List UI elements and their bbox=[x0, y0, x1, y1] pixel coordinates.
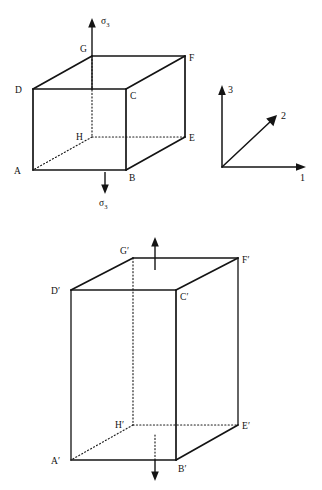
edge-Dp-Gp bbox=[71, 258, 133, 290]
stress-subscript-top: 3 bbox=[106, 21, 110, 28]
hidden-edges-bottom-prism bbox=[71, 258, 238, 460]
vertex-label-B: B bbox=[129, 173, 135, 183]
arrow-head-down-top bbox=[101, 185, 109, 195]
vertex-label-C: C bbox=[130, 91, 136, 101]
stress-arrow-down-bottom-prism bbox=[151, 460, 159, 481]
stress-label-bottom: σ3 bbox=[99, 198, 108, 210]
top-face-top-cube bbox=[33, 56, 185, 89]
undeformed-cube-group: A B C D E F G H σ3 σ3 bbox=[14, 16, 195, 210]
stress-arrow-up-top-cube bbox=[88, 18, 96, 90]
edge-B-E bbox=[126, 137, 185, 170]
vertex-label-G-prime: G′ bbox=[120, 246, 129, 256]
axis-label-2: 2 bbox=[281, 110, 286, 121]
hidden-edge-Hp-Ap bbox=[71, 425, 133, 460]
front-face-bottom-prism bbox=[71, 290, 176, 460]
vertex-label-B-prime: B′ bbox=[178, 464, 187, 474]
stress-arrow-down-top-cube bbox=[101, 172, 109, 194]
vertex-label-D-prime: D′ bbox=[51, 286, 60, 296]
stress-subscript-bottom: 3 bbox=[104, 203, 108, 210]
vertex-label-C-prime: C′ bbox=[180, 292, 189, 302]
axis-label-3: 3 bbox=[228, 84, 233, 95]
axis-1-arrowhead bbox=[296, 163, 306, 171]
edge-D-G bbox=[33, 56, 92, 89]
vertex-label-F-prime: F′ bbox=[242, 255, 250, 265]
front-face-top-cube bbox=[33, 89, 126, 170]
deformed-prism-group: A′ B′ C′ D′ E′ F′ G′ H′ bbox=[51, 237, 250, 481]
diagram-canvas: A B C D E F G H σ3 σ3 1 2 3 bbox=[0, 0, 322, 490]
vertex-label-G: G bbox=[80, 44, 87, 54]
stress-arrow-up-bottom-prism bbox=[151, 237, 159, 270]
vertex-label-A: A bbox=[14, 166, 21, 176]
hidden-edge-H-A bbox=[33, 137, 92, 170]
edge-Cp-Fp bbox=[176, 258, 238, 290]
vertex-label-H-prime: H′ bbox=[115, 420, 124, 430]
figure-root: A B C D E F G H σ3 σ3 1 2 3 bbox=[0, 0, 322, 490]
reference-axis-triad: 1 2 3 bbox=[218, 84, 306, 183]
hidden-edges-top-cube bbox=[33, 56, 185, 170]
vertex-label-H: H bbox=[76, 132, 83, 142]
vertex-label-A-prime: A′ bbox=[51, 456, 60, 466]
arrow-head-up-top bbox=[88, 18, 96, 28]
axis-label-1: 1 bbox=[300, 172, 305, 183]
arrow-head-down-bottom bbox=[151, 472, 159, 482]
axis-3-arrowhead bbox=[218, 85, 226, 95]
edge-C-F bbox=[126, 56, 185, 89]
arrow-head-up-bottom bbox=[151, 237, 159, 247]
vertex-label-E-prime: E′ bbox=[242, 421, 250, 431]
stress-label-top: σ3 bbox=[101, 16, 110, 28]
edge-Bp-Ep bbox=[176, 425, 238, 460]
vertex-label-E: E bbox=[189, 133, 195, 143]
vertex-label-F: F bbox=[189, 53, 194, 63]
vertex-label-D: D bbox=[15, 85, 22, 95]
right-face-bottom-prism bbox=[176, 258, 238, 460]
axis-2-line bbox=[222, 121, 271, 167]
